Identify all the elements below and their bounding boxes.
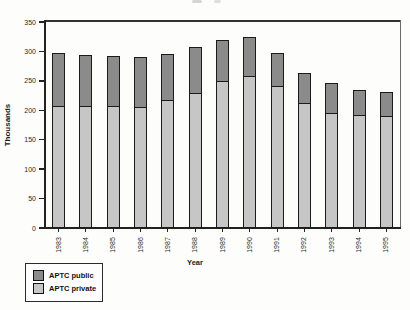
y-tick-label: 50 bbox=[15, 194, 36, 203]
y-axis-title: Thousands bbox=[3, 95, 13, 155]
legend-item-public: APTC public bbox=[33, 270, 95, 281]
y-tick-label: 350 bbox=[15, 18, 36, 27]
y-tick-label: 300 bbox=[15, 47, 36, 56]
cropped-text-artifact bbox=[214, 0, 221, 3]
legend-item-private: APTC private bbox=[33, 283, 95, 294]
x-tick-label: 1994 bbox=[354, 230, 364, 260]
scanned-chart-page: Thousands 050100150200250300350 19831984… bbox=[0, 0, 410, 310]
x-tick-label: 1987 bbox=[163, 230, 173, 260]
x-tick-label: 1995 bbox=[381, 230, 391, 260]
legend-label-private: APTC private bbox=[49, 284, 96, 293]
y-tick-label: 250 bbox=[15, 76, 36, 85]
y-tick-label: 0 bbox=[15, 224, 36, 233]
x-tick-label: 1985 bbox=[108, 230, 118, 260]
x-axis-title: Year bbox=[165, 258, 225, 267]
x-tick-label: 1991 bbox=[272, 230, 282, 260]
legend-swatch-public bbox=[33, 270, 44, 281]
x-tick-label: 1983 bbox=[54, 230, 64, 260]
x-tick-label: 1992 bbox=[299, 230, 309, 260]
y-tick-label: 200 bbox=[15, 106, 36, 115]
x-tick-label: 1986 bbox=[136, 230, 146, 260]
legend-label-public: APTC public bbox=[49, 271, 94, 280]
x-tick-label: 1989 bbox=[218, 230, 228, 260]
x-tick-label: 1988 bbox=[190, 230, 200, 260]
cropped-text-artifact bbox=[192, 0, 202, 3]
y-tick-label: 150 bbox=[15, 135, 36, 144]
legend-swatch-private bbox=[33, 283, 44, 294]
plot-area: 050100150200250300350 bbox=[45, 22, 400, 228]
plot-frame-right bbox=[400, 20, 401, 228]
x-ticks-layer bbox=[45, 22, 400, 228]
x-tick-label: 1993 bbox=[327, 230, 337, 260]
x-tick-label: 1990 bbox=[245, 230, 255, 260]
y-tick-label: 100 bbox=[15, 165, 36, 174]
legend-box: APTC public APTC private bbox=[25, 263, 103, 302]
x-tick-label: 1984 bbox=[81, 230, 91, 260]
